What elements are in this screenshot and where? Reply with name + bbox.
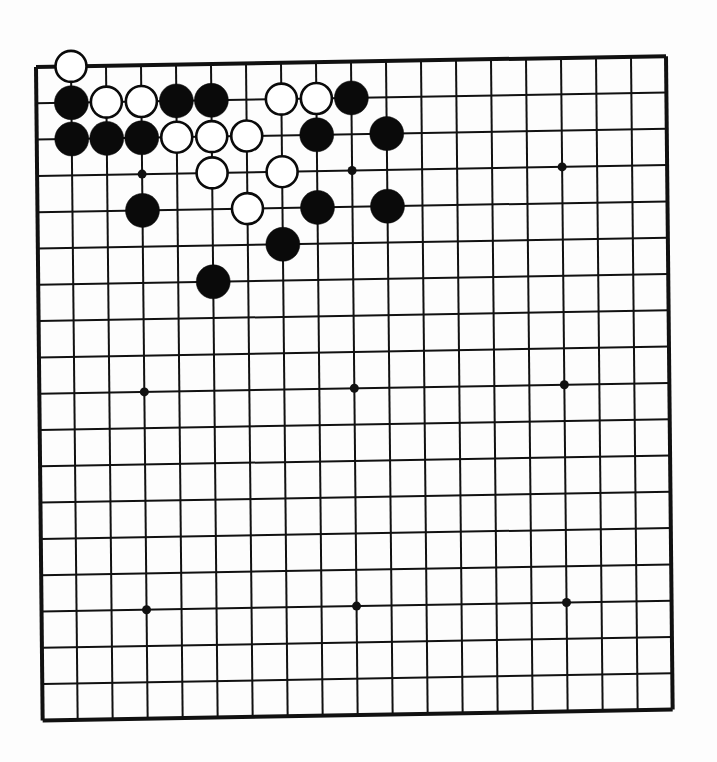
white-stone[interactable] — [161, 122, 192, 153]
black-stone[interactable] — [266, 227, 300, 261]
white-stone[interactable] — [197, 157, 228, 188]
star-point — [562, 598, 571, 607]
black-stone[interactable] — [300, 190, 334, 224]
star-point — [350, 384, 359, 393]
star-point — [140, 387, 149, 396]
black-stone[interactable] — [334, 81, 368, 115]
go-board[interactable] — [0, 0, 717, 762]
star-point — [560, 380, 569, 389]
black-stone[interactable] — [370, 189, 404, 223]
star-points — [138, 162, 571, 614]
star-point — [558, 162, 567, 171]
black-stone[interactable] — [55, 122, 89, 156]
black-stone[interactable] — [370, 117, 404, 151]
black-stone[interactable] — [90, 121, 124, 155]
star-point — [138, 170, 147, 179]
white-stone[interactable] — [196, 121, 227, 152]
star-point — [142, 605, 151, 614]
black-stone[interactable] — [300, 118, 334, 152]
star-point — [348, 166, 357, 175]
black-stone[interactable] — [194, 83, 228, 117]
black-stone[interactable] — [125, 121, 159, 155]
white-stone[interactable] — [126, 86, 157, 117]
white-stone[interactable] — [231, 121, 262, 152]
star-point — [352, 602, 361, 611]
white-stone[interactable] — [301, 83, 332, 114]
white-stone[interactable] — [266, 84, 297, 115]
black-stone[interactable] — [159, 84, 193, 118]
black-stone[interactable] — [125, 193, 159, 227]
white-stone[interactable] — [267, 156, 298, 187]
black-stone[interactable] — [54, 86, 88, 120]
white-stone[interactable] — [232, 193, 263, 224]
white-stone[interactable] — [91, 87, 122, 118]
black-stone[interactable] — [196, 265, 230, 299]
white-stone[interactable] — [56, 51, 87, 82]
